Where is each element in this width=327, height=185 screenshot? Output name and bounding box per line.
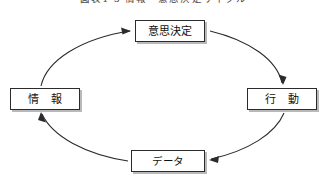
node-information-label: 情 報 <box>24 94 66 105</box>
node-data-label: データ <box>152 156 184 167</box>
node-information: 情 報 <box>10 88 80 110</box>
arrowhead-into-decision <box>121 28 131 35</box>
figure-root: 図表1-5 情報・意思決定サイクル 意思決定 情 報 行 動 データ <box>0 0 327 185</box>
arrowhead-into-action <box>279 75 287 86</box>
node-decision: 意思決定 <box>135 20 205 42</box>
node-data: データ <box>131 150 205 172</box>
node-action: 行 動 <box>247 88 317 110</box>
node-decision-label: 意思決定 <box>148 26 192 37</box>
edge-data-to-information <box>42 114 128 161</box>
edge-information-to-decision <box>41 31 130 86</box>
edge-action-to-data <box>211 113 284 159</box>
arrowhead-into-information <box>38 112 46 123</box>
arrowhead-into-data <box>209 156 219 163</box>
edge-decision-to-action <box>210 31 282 83</box>
node-action-label: 行 動 <box>261 94 303 105</box>
